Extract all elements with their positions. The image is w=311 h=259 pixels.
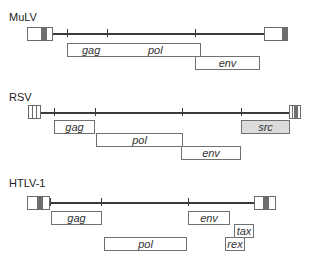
tick-mark [188, 198, 189, 206]
gene-label-gag: gag [65, 122, 83, 133]
gene-label-pol: pol [138, 239, 153, 250]
virus-label-htlv1: HTLV-1 [9, 177, 45, 189]
gene-box-gag: gag [54, 120, 95, 134]
ltr-right [289, 105, 301, 119]
tick-mark [241, 108, 242, 116]
genome-line [52, 33, 264, 35]
tick-mark [67, 29, 68, 37]
virus-label-rsv: RSV [9, 91, 32, 103]
ltr-left [27, 27, 53, 41]
gene-label-env: env [202, 148, 220, 159]
retrovirus-genome-diagram: MuLV gag pol env RSV [0, 0, 311, 259]
tick-mark [50, 198, 51, 206]
gene-box-gag: gag [51, 211, 102, 225]
ltr-divider [36, 106, 37, 118]
genome-line [50, 202, 254, 204]
ltr-divider [292, 106, 293, 118]
ltr-band [37, 197, 43, 209]
gene-box-pol: pol [104, 237, 187, 251]
ltr-band [294, 106, 298, 118]
genome-line [40, 112, 290, 114]
gene-label-gag: gag [67, 213, 85, 224]
gene-box-rex: rex [225, 237, 245, 251]
tick-mark [54, 108, 55, 116]
ltr-band [282, 28, 288, 40]
gene-label-gag: gag [82, 45, 100, 56]
gene-label-pol: pol [132, 135, 147, 146]
gene-box-env: env [188, 211, 230, 225]
ltr-right [254, 196, 276, 210]
gene-label-rex: rex [227, 239, 242, 250]
gene-box-env: env [181, 146, 241, 160]
tick-mark [101, 198, 102, 206]
gene-box-gag-pol: gag pol [67, 43, 201, 57]
gene-box-pol: pol [96, 133, 183, 147]
ltr-divider [32, 106, 33, 118]
tick-mark [182, 108, 183, 116]
ltr-left [28, 105, 41, 119]
ltr-left [27, 196, 50, 210]
gene-label-tax: tax [237, 226, 252, 237]
ltr-band [41, 28, 47, 40]
tick-mark [107, 29, 108, 37]
ltr-band [263, 197, 269, 209]
gene-box-env: env [195, 56, 260, 70]
gene-box-tax: tax [234, 224, 254, 238]
tick-mark [95, 108, 96, 116]
ltr-right [264, 27, 288, 41]
virus-label-mulv: MuLV [9, 11, 37, 23]
gene-label-env: env [200, 213, 218, 224]
gene-label-src: src [258, 122, 273, 133]
gene-label-env: env [219, 58, 237, 69]
gene-box-src: src [241, 120, 290, 134]
tick-mark [195, 29, 196, 37]
gene-label-pol: pol [148, 45, 163, 56]
